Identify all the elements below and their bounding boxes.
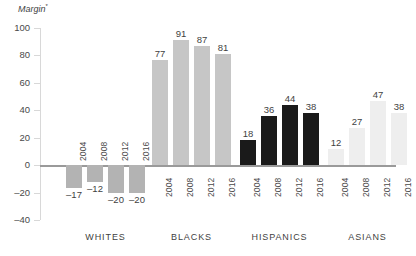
- bar-year-label: 2012: [206, 178, 216, 197]
- y-axis-title-footnote-marker: *: [46, 3, 48, 9]
- bar-hispanics-2012: 44: [282, 105, 298, 165]
- y-axis-tick-label: 0: [25, 158, 30, 171]
- bar-value-label: 36: [252, 104, 286, 115]
- y-axis-tick: 60: [34, 83, 40, 84]
- bar-whites-2016: –20: [129, 165, 145, 192]
- y-axis-tick-label: –40: [14, 213, 30, 226]
- y-axis-tick-label: –20: [14, 186, 30, 199]
- bar-year-label: 2008: [273, 178, 283, 197]
- bar-hispanics-2016: 38: [303, 113, 319, 165]
- bar-year-label: 2016: [403, 178, 413, 197]
- y-axis-tick-label: 20: [19, 131, 30, 144]
- bar-value-label: 12: [319, 137, 353, 148]
- bar-whites-2012: –20: [108, 165, 124, 192]
- group-label-asians: ASIANS: [328, 232, 407, 242]
- bar-blacks-2004: 77: [152, 60, 168, 166]
- y-axis-title: Margin*: [18, 3, 48, 14]
- bar-asians-2016: 38: [391, 113, 407, 165]
- y-axis-tick: 0: [34, 165, 40, 166]
- bar-asians-2004: 12: [328, 149, 344, 165]
- bar-year-label: 2004: [340, 178, 350, 197]
- bar-whites-2008: –12: [87, 165, 103, 181]
- bar-year-label: 2016: [227, 178, 237, 197]
- bar-hispanics-2004: 18: [240, 140, 256, 165]
- y-axis-tick-label: 100: [14, 21, 30, 34]
- y-axis-tick-label: 80: [19, 48, 30, 61]
- y-axis-tick: –40: [34, 220, 40, 221]
- bar-value-label: –20: [120, 194, 154, 205]
- bar-value-label: 47: [361, 89, 395, 100]
- bar-blacks-2012: 87: [194, 46, 210, 165]
- bar-value-label: 38: [294, 101, 328, 112]
- bar-year-label: 2016: [141, 142, 151, 161]
- group-label-hispanics: HISPANICS: [240, 232, 319, 242]
- bar-blacks-2008: 91: [173, 40, 189, 165]
- bar-value-label: 27: [340, 116, 374, 127]
- y-axis-line: [40, 28, 41, 220]
- bar-blacks-2016: 81: [215, 54, 231, 165]
- bar-year-label: 2016: [315, 178, 325, 197]
- bar-year-label: 2012: [382, 178, 392, 197]
- bar-value-label: 38: [382, 101, 416, 112]
- bar-year-label: 2004: [78, 142, 88, 161]
- bar-year-label: 2012: [120, 142, 130, 161]
- bar-year-label: 2012: [294, 178, 304, 197]
- y-axis-tick-label: 60: [19, 76, 30, 89]
- y-axis-title-text: Margin: [18, 4, 46, 14]
- y-axis-tick: –20: [34, 193, 40, 194]
- bar-value-label: –12: [78, 183, 112, 194]
- bar-hispanics-2008: 36: [261, 116, 277, 165]
- y-axis-tick: 20: [34, 138, 40, 139]
- bar-year-label: 2004: [252, 178, 262, 197]
- bar-year-label: 2008: [361, 178, 371, 197]
- plot-area: 100806040200–20–40–172004–122008–202012–…: [40, 28, 396, 220]
- y-axis-tick-label: 40: [19, 103, 30, 116]
- group-label-blacks: BLACKS: [152, 232, 231, 242]
- bar-asians-2008: 27: [349, 128, 365, 165]
- y-axis-tick: 80: [34, 55, 40, 56]
- bar-value-label: 77: [143, 48, 177, 59]
- y-axis-tick: 100: [34, 28, 40, 29]
- bar-year-label: 2004: [164, 178, 174, 197]
- bar-value-label: 81: [206, 42, 240, 53]
- bar-value-label: 18: [231, 128, 265, 139]
- group-label-whites: WHITES: [66, 232, 145, 242]
- bar-year-label: 2008: [99, 142, 109, 161]
- y-axis-tick: 40: [34, 110, 40, 111]
- bar-year-label: 2008: [185, 178, 195, 197]
